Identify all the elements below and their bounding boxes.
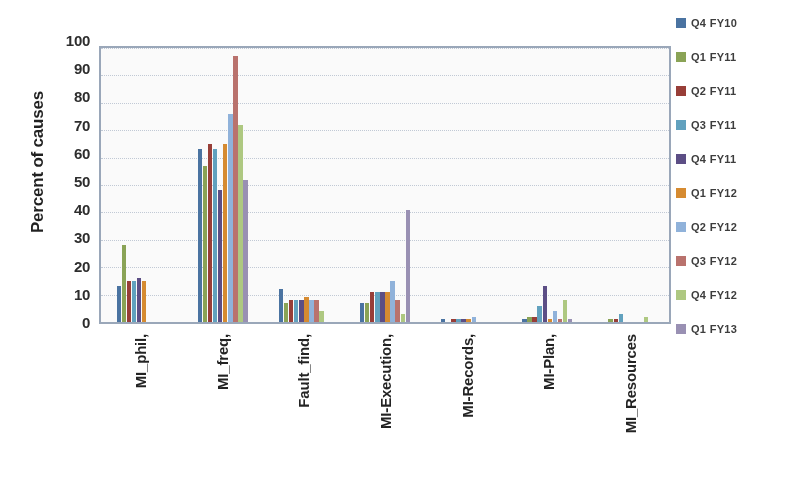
bar xyxy=(208,144,212,322)
x-axis-category-labels: MI_phil,MI_freq,Fault_find,MI-Execution,… xyxy=(99,326,671,496)
bar xyxy=(548,319,552,322)
bar xyxy=(218,190,222,322)
bar xyxy=(233,56,237,322)
bar xyxy=(309,300,313,322)
bar xyxy=(299,300,303,322)
x-axis-tick-label: MI_phil, xyxy=(131,334,148,388)
legend-label: Q1 FY12 xyxy=(691,187,737,199)
bar xyxy=(568,319,572,322)
legend-item[interactable]: Q2 FY11 xyxy=(676,74,791,108)
bar-group xyxy=(263,48,344,322)
bar xyxy=(203,166,207,322)
x-axis-tick-label: MI-Execution, xyxy=(377,334,394,429)
y-axis-tick-label: 0 xyxy=(44,317,90,329)
legend-item[interactable]: Q1 FY12 xyxy=(676,176,791,210)
legend-color-swatch xyxy=(676,52,686,62)
bar xyxy=(279,289,283,322)
bar xyxy=(294,300,298,322)
legend-item[interactable]: Q1 FY13 xyxy=(676,312,791,346)
bar xyxy=(543,286,547,322)
bar xyxy=(614,319,618,322)
legend-color-swatch xyxy=(676,188,686,198)
bar xyxy=(380,292,384,322)
y-axis-tick-label: 100 xyxy=(44,35,90,47)
legend-color-swatch xyxy=(676,256,686,266)
bar xyxy=(522,319,526,322)
bar xyxy=(223,144,227,322)
legend-label: Q4 FY10 xyxy=(691,17,737,29)
bar xyxy=(243,180,247,322)
bar xyxy=(558,319,562,322)
legend-item[interactable]: Q2 FY12 xyxy=(676,210,791,244)
bar xyxy=(375,292,379,322)
bar xyxy=(289,300,293,322)
bar xyxy=(401,314,405,322)
x-axis-tick-label: MI_Resources xyxy=(622,334,639,433)
legend-color-swatch xyxy=(676,154,686,164)
legend-label: Q1 FY13 xyxy=(691,323,737,335)
legend-item[interactable]: Q4 FY12 xyxy=(676,278,791,312)
y-axis-tick-label: 60 xyxy=(44,148,90,160)
bar xyxy=(117,286,121,322)
legend-color-swatch xyxy=(676,290,686,300)
x-axis-tick-label: MI_freq, xyxy=(213,334,230,390)
bar xyxy=(284,303,288,322)
legend-color-swatch xyxy=(676,18,686,28)
legend-label: Q4 FY12 xyxy=(691,289,737,301)
bar-group xyxy=(507,48,588,322)
bar xyxy=(406,210,410,322)
bar xyxy=(370,292,374,322)
x-axis-label-cell: Fault_find, xyxy=(262,326,344,496)
x-axis-label-cell: MI-Plan, xyxy=(507,326,589,496)
bar-group xyxy=(426,48,507,322)
x-axis-label-cell: MI_phil, xyxy=(99,326,181,496)
y-axis-tick-label: 10 xyxy=(44,289,90,301)
legend-color-swatch xyxy=(676,120,686,130)
bar xyxy=(132,281,136,322)
bar xyxy=(142,281,146,322)
bar xyxy=(360,303,364,322)
y-axis-tick-label: 70 xyxy=(44,120,90,132)
bar xyxy=(385,292,389,322)
x-axis-label-cell: MI-Records, xyxy=(426,326,508,496)
bar-chart: Percent of causes 1009080706050403020100… xyxy=(0,0,795,496)
legend-item[interactable]: Q3 FY12 xyxy=(676,244,791,278)
bar xyxy=(304,297,308,322)
legend-item[interactable]: Q4 FY11 xyxy=(676,142,791,176)
plot-area xyxy=(99,46,671,324)
bar xyxy=(213,149,217,322)
bar xyxy=(644,317,648,322)
bar xyxy=(198,149,202,322)
y-axis-tick-labels: 1009080706050403020100 xyxy=(44,41,90,323)
bar xyxy=(314,300,318,322)
bar xyxy=(441,319,445,322)
bar-group xyxy=(182,48,263,322)
bar xyxy=(553,311,557,322)
legend-item[interactable]: Q3 FY11 xyxy=(676,108,791,142)
x-axis-tick-label: MI-Plan, xyxy=(540,334,557,390)
bar xyxy=(122,245,126,322)
x-axis-tick-label: Fault_find, xyxy=(295,334,312,408)
bar xyxy=(238,125,242,322)
legend-label: Q2 FY11 xyxy=(691,85,737,97)
y-axis-tick-label: 80 xyxy=(44,91,90,103)
bar xyxy=(608,319,612,322)
bar xyxy=(127,281,131,322)
legend-item[interactable]: Q1 FY11 xyxy=(676,40,791,74)
bar xyxy=(466,319,470,322)
bar-group xyxy=(101,48,182,322)
bar xyxy=(532,317,536,322)
bar xyxy=(619,314,623,322)
legend-color-swatch xyxy=(676,86,686,96)
bar xyxy=(390,281,394,322)
bar xyxy=(563,300,567,322)
gridline xyxy=(101,322,669,323)
legend-label: Q3 FY12 xyxy=(691,255,737,267)
bar xyxy=(228,114,232,322)
bar-group xyxy=(344,48,425,322)
legend-color-swatch xyxy=(676,222,686,232)
y-axis-tick-label: 20 xyxy=(44,261,90,273)
bar xyxy=(365,303,369,322)
y-axis-tick-label: 90 xyxy=(44,63,90,75)
legend-item[interactable]: Q4 FY10 xyxy=(676,6,791,40)
